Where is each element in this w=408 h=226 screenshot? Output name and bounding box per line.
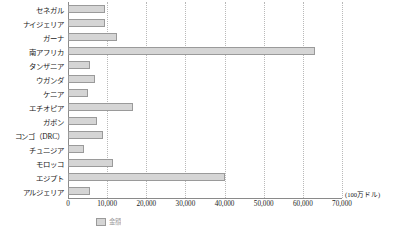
legend-label: 金額 xyxy=(109,217,121,226)
x-tick-label: 70,000 xyxy=(332,200,352,208)
x-tick-label: 50,000 xyxy=(254,200,274,208)
plot-area xyxy=(68,2,342,198)
bar-row xyxy=(68,44,342,58)
x-tick-label: 30,000 xyxy=(176,200,196,208)
category-label: ナイジェリア xyxy=(23,16,64,30)
bar xyxy=(68,173,225,181)
x-axis-tick-labels: 010,00020,00030,00040,00050,00060,00070,… xyxy=(0,200,408,212)
bar-row xyxy=(68,2,342,16)
bar xyxy=(68,103,133,111)
x-tick-label: 40,000 xyxy=(215,200,235,208)
bar xyxy=(68,89,88,97)
bar-row xyxy=(68,30,342,44)
bar-row xyxy=(68,72,342,86)
x-tick-label: 20,000 xyxy=(136,200,156,208)
legend-swatch xyxy=(96,218,106,226)
bar-row xyxy=(68,156,342,170)
category-label: チュニジア xyxy=(29,142,64,156)
category-label: ガーナ xyxy=(43,30,64,44)
bar xyxy=(68,145,84,153)
bar xyxy=(68,19,105,27)
category-label: コンゴ（DRC） xyxy=(15,128,64,142)
bar-row xyxy=(68,128,342,142)
x-axis-line xyxy=(68,198,342,199)
category-label: エジプト xyxy=(36,170,64,184)
bar-row xyxy=(68,100,342,114)
category-label: 南アフリカ xyxy=(29,44,64,58)
category-label: タンザニア xyxy=(29,58,64,72)
bar xyxy=(68,131,103,139)
axis-unit-label: (100万ドル) xyxy=(345,189,380,199)
x-tick-label: 0 xyxy=(66,200,70,208)
category-axis-labels: セネガルナイジェリアガーナ南アフリカタンザニアウガンダケニアエチオピアガボンコン… xyxy=(0,2,64,198)
category-label: モロッコ xyxy=(36,156,64,170)
bar-row xyxy=(68,170,342,184)
bar xyxy=(68,47,315,55)
category-label: ケニア xyxy=(43,86,64,100)
category-label: ウガンダ xyxy=(36,72,64,86)
bar xyxy=(68,187,90,195)
gridline-70000 xyxy=(342,2,343,198)
bar xyxy=(68,159,113,167)
bar xyxy=(68,117,97,125)
bar xyxy=(68,61,90,69)
bar-row xyxy=(68,86,342,100)
bar-row xyxy=(68,142,342,156)
x-tick-label: 10,000 xyxy=(97,200,117,208)
category-label: アルジェリア xyxy=(23,184,64,198)
bar xyxy=(68,75,95,83)
category-label: セネガル xyxy=(36,2,64,16)
bar-row xyxy=(68,58,342,72)
category-label: エチオピア xyxy=(29,100,64,114)
bar-row xyxy=(68,16,342,30)
chart-legend-clipped: 金額 xyxy=(96,217,121,226)
bar xyxy=(68,33,117,41)
bar-chart: セネガルナイジェリアガーナ南アフリカタンザニアウガンダケニアエチオピアガボンコン… xyxy=(0,0,408,226)
bar-row xyxy=(68,184,342,198)
bar-row xyxy=(68,114,342,128)
x-tick-label: 60,000 xyxy=(293,200,313,208)
bar xyxy=(68,5,105,13)
bar-series xyxy=(68,2,342,198)
category-label: ガボン xyxy=(43,114,64,128)
